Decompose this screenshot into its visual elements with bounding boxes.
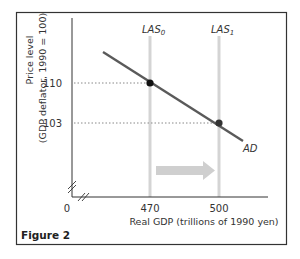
x-tick-0: 0 (64, 203, 70, 214)
y-axis-subtitle: (GDP deflator, 1990 = 100) (37, 13, 48, 143)
figure-canvas: 110 103 0 470 500 Real GDP (trillions of… (0, 0, 300, 259)
equilibrium-point-0 (146, 79, 153, 86)
svg-text:Price level: Price level (24, 36, 35, 85)
x-axis-title: Real GDP (trillions of 1990 yen) (129, 216, 278, 227)
y-axis-title: Price level (24, 36, 35, 85)
x-tick-500: 500 (209, 203, 228, 214)
figure-caption: Figure 2 (21, 229, 70, 241)
x-tick-470: 470 (140, 203, 159, 214)
ad-label: AD (242, 143, 258, 154)
equilibrium-point-1 (215, 119, 222, 126)
